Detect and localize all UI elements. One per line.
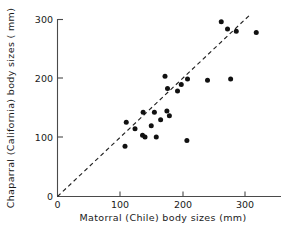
data-point (164, 108, 169, 113)
data-point (234, 29, 239, 34)
x-axis-tick-labels: 0 100 200 300 (54, 199, 254, 210)
data-point (165, 86, 170, 91)
data-point (225, 26, 230, 31)
data-point (163, 74, 168, 79)
data-point (143, 134, 148, 139)
x-tick-label-0: 0 (54, 199, 60, 210)
data-point (175, 88, 180, 93)
x-tick-label-300: 300 (236, 199, 254, 210)
data-point (184, 138, 189, 143)
data-point (228, 77, 233, 82)
data-point (254, 30, 259, 35)
data-point (219, 19, 224, 24)
x-tick-label-100: 100 (111, 199, 129, 210)
x-tick-label-200: 200 (174, 199, 192, 210)
data-point (167, 113, 172, 118)
data-point (205, 78, 210, 83)
y-axis-tick-labels: 300 200 100 0 (35, 14, 53, 202)
data-point (141, 110, 146, 115)
y-tick-label-300: 300 (35, 14, 53, 25)
x-axis-ticks (120, 192, 245, 197)
scatter-plot-figure: 300 200 100 0 0 100 200 300 Matorral (Ch… (0, 0, 289, 235)
reference-line-layer (58, 14, 252, 197)
y-axis-title: Chaparral (California) body sizes ( mm) (5, 8, 16, 209)
data-point (154, 134, 159, 139)
y-tick-label-100: 100 (35, 132, 53, 143)
y-tick-label-0: 0 (47, 191, 53, 202)
data-point (179, 82, 184, 87)
data-point (124, 120, 129, 125)
data-point (152, 110, 157, 115)
plot-canvas: 300 200 100 0 0 100 200 300 Matorral (Ch… (0, 0, 289, 235)
one-to-one-reference-line (58, 14, 252, 197)
data-point (158, 117, 163, 122)
y-axis-ticks (58, 20, 64, 138)
data-point (133, 126, 138, 131)
data-points-layer (123, 19, 259, 148)
axis-group (57, 19, 281, 197)
x-axis-title: Matorral (Chile) body sizes (mm) (80, 212, 247, 223)
data-point (123, 144, 128, 149)
data-point (149, 123, 154, 128)
y-tick-label-200: 200 (35, 73, 53, 84)
data-point (185, 77, 190, 82)
